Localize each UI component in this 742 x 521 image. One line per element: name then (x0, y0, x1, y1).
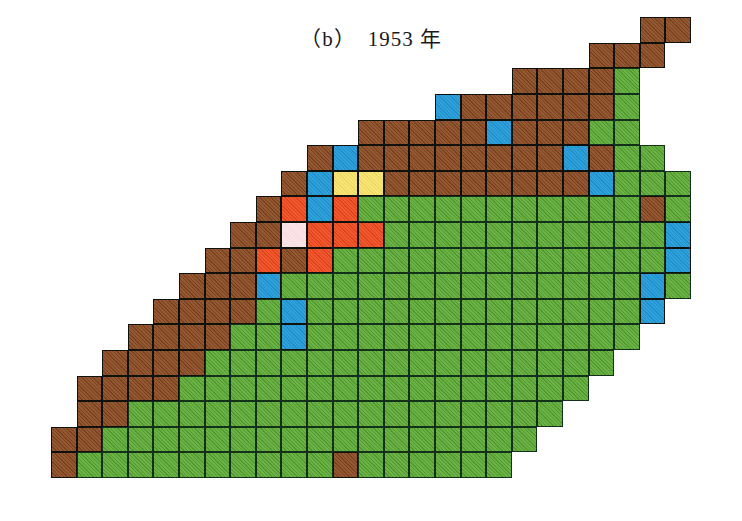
nuclide-cell-blue (563, 145, 589, 171)
nuclide-cell-green (281, 273, 307, 299)
nuclide-cell-brown (333, 452, 359, 478)
nuclide-cell-green (384, 273, 410, 299)
nuclide-cell-green (537, 376, 563, 402)
nuclide-cell-green (358, 376, 384, 402)
nuclide-cell-green (435, 196, 461, 222)
nuclide-cell-green (563, 324, 589, 350)
nuclide-cell-yellow (358, 171, 384, 197)
nuclide-cell-brown (128, 324, 154, 350)
nuclide-cell-brown (512, 94, 538, 120)
nuclide-cell-brown (486, 171, 512, 197)
nuclide-cell-green (153, 427, 179, 453)
nuclide-cell-green (486, 196, 512, 222)
nuclide-cell-green (256, 401, 282, 427)
nuclide-cell-green (384, 324, 410, 350)
nuclide-cell-green (384, 427, 410, 453)
nuclide-cell-green (614, 324, 640, 350)
nuclide-cell-green (102, 452, 128, 478)
nuclide-cell-green (512, 222, 538, 248)
nuclide-cell-green (409, 401, 435, 427)
nuclide-cell-green (230, 350, 256, 376)
nuclide-cell-green (486, 248, 512, 274)
nuclide-cell-green (589, 299, 615, 325)
nuclide-cell-green (384, 350, 410, 376)
nuclide-cell-brown (461, 171, 487, 197)
nuclide-cell-brown (153, 376, 179, 402)
nuclide-cell-brown (256, 196, 282, 222)
nuclide-cell-red (333, 196, 359, 222)
nuclide-cell-brown (205, 273, 231, 299)
nuclide-cell-brown (435, 171, 461, 197)
nuclide-cell-green (409, 299, 435, 325)
nuclide-cell-green (307, 299, 333, 325)
nuclide-cell-green (179, 401, 205, 427)
nuclide-cell-brown (640, 196, 666, 222)
nuclide-cell-blue (665, 248, 691, 274)
nuclide-cell-green (537, 350, 563, 376)
nuclide-cell-green (461, 273, 487, 299)
nuclide-cell-green (358, 350, 384, 376)
nuclide-cell-brown (153, 299, 179, 325)
nuclide-cell-green (640, 222, 666, 248)
nuclide-cell-green (512, 273, 538, 299)
nuclide-cell-brown (461, 120, 487, 146)
nuclide-cell-brown (102, 401, 128, 427)
nuclide-cell-green (333, 427, 359, 453)
nuclide-cell-brown (51, 452, 77, 478)
nuclide-cell-brown (563, 94, 589, 120)
nuclide-cell-brown (537, 171, 563, 197)
nuclide-cell-brown (537, 94, 563, 120)
nuclide-cell-green (435, 427, 461, 453)
nuclide-cell-green (384, 401, 410, 427)
nuclide-cell-brown (230, 299, 256, 325)
nuclide-cell-brown (230, 273, 256, 299)
nuclide-cell-green (537, 248, 563, 274)
nuclide-cell-red (307, 248, 333, 274)
nuclide-cell-green (409, 324, 435, 350)
nuclide-cell-brown (281, 171, 307, 197)
nuclide-cell-green (256, 427, 282, 453)
nuclide-cell-green (333, 350, 359, 376)
nuclide-cell-brown (640, 43, 666, 69)
nuclide-cell-green (435, 299, 461, 325)
nuclide-cell-brown (256, 222, 282, 248)
nuclide-cell-blue (435, 94, 461, 120)
nuclide-cell-brown (384, 171, 410, 197)
nuclide-cell-green (409, 452, 435, 478)
nuclide-cell-brown (589, 43, 615, 69)
nuclide-cell-brown (589, 94, 615, 120)
nuclide-cell-green (153, 401, 179, 427)
nuclide-cell-green (409, 196, 435, 222)
nuclide-cell-green (358, 299, 384, 325)
nuclide-cell-brown (665, 17, 691, 43)
nuclide-cell-green (537, 401, 563, 427)
nuclide-cell-brown (51, 427, 77, 453)
nuclide-cell-green (512, 376, 538, 402)
nuclide-cell-green (230, 427, 256, 453)
nuclide-cell-green (128, 452, 154, 478)
nuclide-cell-green (665, 196, 691, 222)
nuclide-cell-green (307, 324, 333, 350)
nuclide-cell-green (307, 452, 333, 478)
nuclide-cell-green (614, 171, 640, 197)
nuclide-cell-green (537, 196, 563, 222)
nuclide-cell-brown (384, 145, 410, 171)
nuclide-cell-brown (409, 120, 435, 146)
nuclide-cell-blue (640, 273, 666, 299)
nuclide-cell-brown (153, 324, 179, 350)
nuclide-cell-green (461, 452, 487, 478)
nuclide-cell-green (333, 324, 359, 350)
nuclide-cell-green (179, 376, 205, 402)
nuclide-cell-green (665, 273, 691, 299)
nuclide-cell-green (486, 222, 512, 248)
nuclide-cell-green (614, 248, 640, 274)
nuclide-cell-green (230, 324, 256, 350)
nuclide-cell-green (358, 196, 384, 222)
nuclide-cell-red (333, 222, 359, 248)
nuclide-cell-green (435, 452, 461, 478)
nuclide-cell-green (512, 324, 538, 350)
nuclide-cell-green (256, 299, 282, 325)
nuclide-cell-green (77, 452, 103, 478)
nuclide-cell-green (179, 427, 205, 453)
nuclide-cell-green (640, 145, 666, 171)
